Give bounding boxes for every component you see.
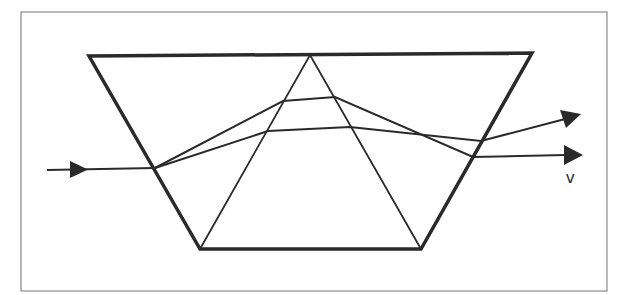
label-v: v [566, 168, 575, 188]
prism-diagram [0, 0, 635, 295]
upper-ray [155, 97, 566, 168]
arrow-r-icon [560, 110, 581, 128]
outer-prism [89, 53, 532, 249]
incoming-ray [47, 168, 155, 170]
incoming-arrow-icon [70, 161, 88, 178]
inner-prism-triangle [200, 55, 421, 249]
arrow-v-icon [564, 145, 583, 165]
